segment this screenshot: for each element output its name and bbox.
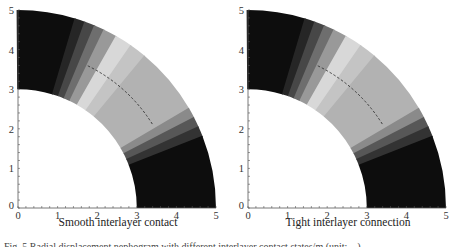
right-xlabel: Tight interlayer connection xyxy=(230,216,460,228)
y-tick-label: 4 xyxy=(9,45,15,56)
figure-caption-text: Fig. 5 Radial displacement nephogram wit… xyxy=(4,240,456,247)
y-tick-label: 0 xyxy=(239,200,244,211)
right-panel: 012345012345 Tight interlayer connection xyxy=(230,0,460,232)
figure-caption: Fig. 5 Radial displacement nephogram wit… xyxy=(4,239,456,247)
y-tick-label: 5 xyxy=(239,5,244,16)
y-tick-label: 0 xyxy=(9,200,14,211)
y-tick-label: 3 xyxy=(9,84,14,95)
annulus-bands xyxy=(247,10,446,208)
y-tick-label: 1 xyxy=(9,163,14,174)
left-xlabel: Smooth interlayer contact xyxy=(0,216,236,228)
y-tick-label: 1 xyxy=(239,163,244,174)
y-tick-label: 2 xyxy=(239,124,244,135)
left-panel: 012345012345 Smooth interlayer contact xyxy=(0,0,230,232)
y-tick-label: 2 xyxy=(9,124,14,135)
y-tick-label: 4 xyxy=(239,45,245,56)
left-plot: 012345012345 xyxy=(0,0,230,232)
y-tick-label: 3 xyxy=(239,84,244,95)
right-plot: 012345012345 xyxy=(230,0,460,232)
annulus-bands xyxy=(17,10,216,208)
y-tick-label: 5 xyxy=(9,5,14,16)
